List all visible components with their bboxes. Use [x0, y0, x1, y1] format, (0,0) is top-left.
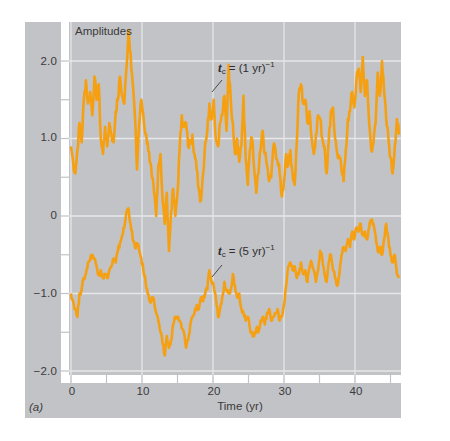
annotation-slow-series: tc = (5 yr)−1 [218, 243, 275, 259]
x-axis-gutter [61, 375, 401, 383]
annotation-superscript: −1 [266, 243, 275, 252]
y-tick-label-minus-2: −2.0 [23, 365, 57, 377]
y-axis-gutter [61, 22, 69, 383]
x-tick-label-30: 30 [270, 385, 300, 397]
series-line-5yr [71, 208, 399, 355]
x-tick-label-0: 0 [57, 385, 87, 397]
annotation-equals: = (5 yr) [229, 245, 266, 257]
annotation-subscript: c [222, 250, 226, 259]
y-tick-label-0: 0 [23, 209, 57, 221]
panel-label: (a) [29, 401, 43, 413]
annotation-superscript: −1 [266, 60, 275, 69]
annotation-subscript: c [222, 67, 226, 76]
chart-figure: Amplitudes 2.0 1.0 0 −1.0 −2.0 0 10 20 3… [0, 0, 450, 441]
annotation-equals: = (1 yr) [229, 62, 266, 74]
x-tick-label-10: 10 [128, 385, 158, 397]
x-tick-label-20: 20 [199, 385, 229, 397]
y-axis-title: Amplitudes [75, 25, 132, 37]
y-tick-label-1: 1.0 [23, 131, 57, 143]
x-axis-title: Time (yr) [200, 400, 280, 412]
annotation-fast-series: tc = (1 yr)−1 [218, 60, 275, 76]
x-tick-label-40: 40 [341, 385, 371, 397]
y-tick-label-2: 2.0 [23, 55, 57, 67]
y-tick-label-minus-1: −1.0 [23, 287, 57, 299]
data-series [71, 30, 399, 356]
